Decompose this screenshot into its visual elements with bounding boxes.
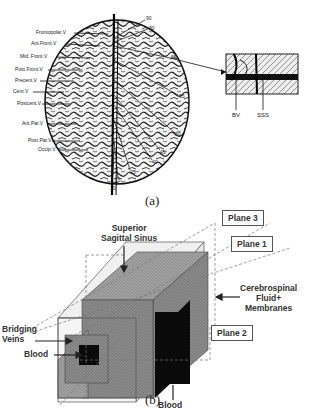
figure-b: Superior Sagittal Sinus Plane 3 Plane 1 … xyxy=(0,200,309,415)
vein-label-ant-front: Ant.Front.V xyxy=(31,41,56,46)
vein-label-post-par: Post.Par.V xyxy=(28,138,52,143)
label-plane-2: Plane 2 xyxy=(211,325,253,341)
label-blood-center: Blood xyxy=(158,401,182,411)
vein-label-precent: Precent.V xyxy=(15,78,37,83)
angle-label-45: 45 xyxy=(160,150,166,155)
angle-label-50: 50 xyxy=(175,132,181,137)
angle-label-25: 25 xyxy=(130,170,136,175)
label-csf-membranes: Cerebrospinal Fluid+ Membranes xyxy=(240,284,297,313)
vein-label-mid-front: Mid. Front.V xyxy=(20,54,47,59)
vein-label-cent: Cent.V xyxy=(13,89,28,94)
label-plane-3: Plane 3 xyxy=(222,210,264,226)
label-text: Superior Sagittal Sinus xyxy=(101,223,157,243)
angle-label-65a: 65 xyxy=(171,55,177,60)
inset-label-bv: BV xyxy=(232,112,240,118)
label-plane-1: Plane 1 xyxy=(231,236,273,252)
vein-label-frontopolar: Frontopolar.V xyxy=(36,30,66,35)
label-text: Bridging Veins xyxy=(2,324,37,344)
angle-label-15: 15 xyxy=(115,178,121,183)
angle-label-80: 80 xyxy=(149,26,155,31)
label-superior-sagittal-sinus: Superior Sagittal Sinus xyxy=(101,224,157,244)
inset-label-sss: SSS xyxy=(257,112,269,118)
caption-b: (b) xyxy=(145,392,160,408)
label-bridging-veins: Bridging Veins xyxy=(2,325,37,345)
vein-label-occip: Occip.V xyxy=(38,147,56,152)
angle-label-40: 40 xyxy=(152,160,158,165)
angle-label-90: 90 xyxy=(146,16,152,21)
vein-label-ant-par: Ant.Par.V xyxy=(22,121,43,126)
label-blood-left: Blood xyxy=(24,350,48,360)
vein-label-post-front: Post.Front.V xyxy=(15,67,43,72)
label-text: Cerebrospinal Fluid+ Membranes xyxy=(240,283,297,313)
angle-label-10: 10 xyxy=(110,186,116,191)
vein-label-postcent: Postcent.V xyxy=(17,101,41,106)
figure-a: Frontopolar.V Ant.Front.V Mid. Front.V P… xyxy=(0,0,309,200)
angle-label-65b: 65 xyxy=(179,94,185,99)
